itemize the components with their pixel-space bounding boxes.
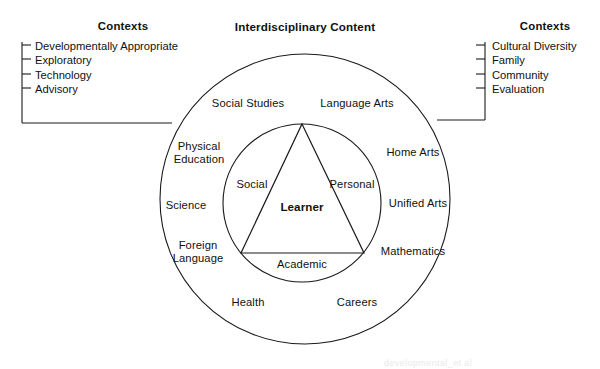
contexts-right-item-2: Family — [492, 53, 525, 68]
right-bracket — [437, 42, 485, 120]
ring-label-science: Science — [166, 199, 207, 212]
inner-label-social: Social — [236, 178, 267, 191]
contexts-left-item-3: Technology — [35, 68, 92, 83]
contexts-right-item-1: Cultural Diversity — [492, 39, 577, 54]
contexts-right-heading: Contexts — [520, 20, 570, 33]
contexts-left-item-2: Exploratory — [35, 53, 92, 68]
ring-label-physical-education: Physical Education — [174, 140, 225, 166]
learner-center-label: Learner — [280, 200, 323, 213]
contexts-right-item-4: Evaluation — [492, 82, 544, 97]
ring-label-foreign-language: Foreign Language — [173, 239, 224, 265]
ring-label-social-studies: Social Studies — [212, 97, 284, 110]
figure-title: Interdisciplinary Content — [235, 20, 375, 33]
contexts-left-item-1: Developmentally Appropriate — [35, 39, 178, 54]
ring-label-language-arts: Language Arts — [320, 97, 393, 110]
contexts-left-item-4: Advisory — [35, 82, 78, 97]
ring-label-careers: Careers — [337, 296, 378, 309]
ring-label-health: Health — [232, 296, 265, 309]
contexts-left-heading: Contexts — [98, 20, 148, 33]
inner-label-academic: Academic — [277, 258, 327, 271]
inner-label-personal: Personal — [330, 178, 375, 191]
diagram-canvas: Interdisciplinary Content Contexts Devel… — [0, 0, 600, 369]
ring-label-home-arts: Home Arts — [386, 146, 439, 159]
scan-artifact-text: developmental_et al — [384, 358, 472, 368]
ring-label-mathematics: Mathematics — [381, 245, 446, 258]
ring-label-unified-arts: Unified Arts — [389, 197, 447, 210]
contexts-right-item-3: Community — [492, 68, 549, 83]
